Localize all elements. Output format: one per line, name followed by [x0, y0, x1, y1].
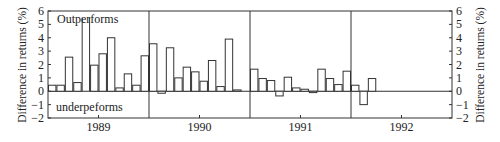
bar	[259, 79, 266, 92]
y-tick-label-right: 0	[456, 84, 462, 98]
y-tick-label-left: −2	[31, 111, 44, 125]
bar	[276, 91, 283, 96]
bar	[183, 67, 190, 91]
bar	[360, 91, 367, 104]
chart: −2−10123456 −2−10123456 1989199019911992…	[0, 0, 500, 142]
y-tick-label-left: −1	[31, 98, 44, 112]
bar	[166, 48, 173, 91]
bar	[318, 69, 325, 91]
bar	[208, 60, 215, 91]
y-tick-label-left: 2	[38, 58, 44, 72]
y-axis-label-left: Difference in returns (%)	[16, 7, 29, 123]
bar	[200, 81, 207, 91]
bar	[99, 54, 106, 91]
bar	[234, 90, 241, 91]
y-tick-label-right: −1	[456, 98, 469, 112]
bar	[301, 89, 308, 91]
y-tick-label-left: 0	[38, 84, 44, 98]
x-tick-label: 1992	[390, 120, 414, 134]
bar	[158, 91, 165, 93]
bar	[225, 39, 232, 91]
bar	[368, 79, 375, 92]
bar	[91, 65, 98, 91]
y-tick-label-right: 5	[456, 17, 462, 31]
bar	[343, 71, 350, 91]
y-tick-label-right: −2	[456, 111, 469, 125]
bar	[65, 57, 72, 91]
y-tick-label-left: 5	[38, 17, 44, 31]
bar	[150, 44, 157, 91]
bar	[217, 87, 224, 92]
bar	[251, 69, 258, 91]
y-tick-label-right: 2	[456, 58, 462, 72]
bars	[49, 18, 376, 105]
y-tick-label-left: 1	[38, 71, 44, 85]
bar	[335, 85, 342, 92]
bar	[116, 88, 123, 91]
bar	[192, 72, 199, 91]
bar	[175, 78, 182, 91]
x-tick-label: 1989	[87, 120, 111, 134]
y-tick-label-left: 6	[38, 4, 44, 18]
bar	[293, 88, 300, 91]
bar	[124, 74, 131, 91]
bar	[309, 91, 316, 92]
bar	[141, 56, 148, 91]
x-tick-label: 1990	[188, 120, 212, 134]
y-tick-label-right: 6	[456, 4, 462, 18]
bar	[57, 85, 64, 91]
bar	[284, 77, 291, 91]
bar	[133, 85, 140, 91]
bar	[352, 85, 359, 91]
y-tick-label-right: 3	[456, 44, 462, 58]
y-tick-label-left: 3	[38, 44, 44, 58]
bar	[267, 81, 274, 92]
y-tick-label-left: 4	[38, 31, 44, 45]
y-axis-label-right: Difference in returns (%)	[474, 7, 487, 123]
bar	[49, 85, 56, 91]
y-tick-label-right: 4	[456, 31, 462, 45]
x-tick-label: 1991	[289, 120, 313, 134]
y-tick-label-right: 1	[456, 71, 462, 85]
bar	[107, 38, 114, 92]
bar	[326, 79, 333, 92]
bar	[74, 83, 81, 92]
annotation-underperforms: underpeforms	[56, 100, 123, 114]
annotation-outperforms: Outperforms	[57, 12, 119, 26]
